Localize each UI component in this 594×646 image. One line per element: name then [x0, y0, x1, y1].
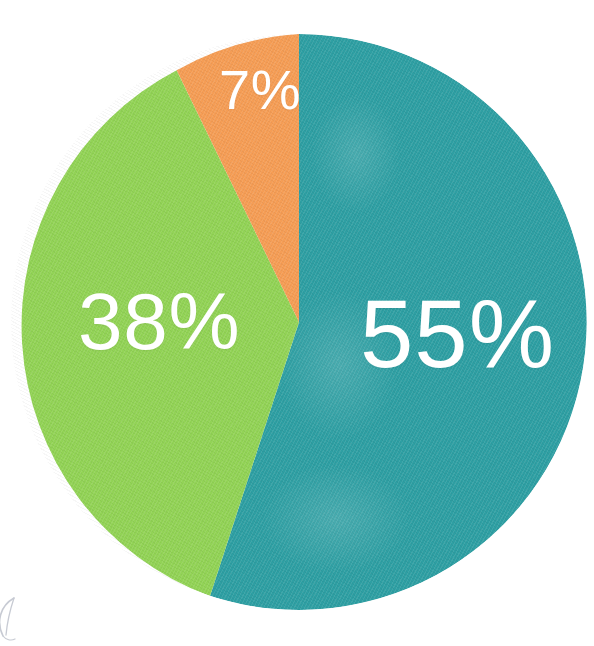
pie-chart-figure: 55% 38% 7%	[0, 0, 594, 646]
pie-label-55: 55%	[360, 286, 555, 382]
pie-label-38: 38%	[78, 282, 241, 362]
pie-label-7: 7%	[219, 62, 301, 118]
